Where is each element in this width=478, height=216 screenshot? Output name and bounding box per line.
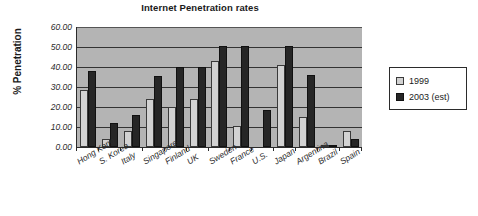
bar-group: [318, 27, 340, 147]
bar-group: [165, 27, 187, 147]
chart-title: Internet Penetration rates: [0, 2, 400, 13]
x-axis-category-labels: Hong KongS. KoreaItalySingaporeFinlandUK…: [0, 152, 478, 216]
x-axis-tick-mark: [295, 147, 296, 151]
x-axis-tick-mark: [273, 147, 274, 151]
bar: [190, 99, 198, 147]
bar: [219, 46, 227, 147]
x-axis-tick-mark: [142, 147, 143, 151]
y-axis-tick-label: 60.00: [26, 22, 72, 32]
y-axis-tick-label: 40.00: [26, 62, 72, 72]
bar: [146, 99, 154, 147]
bar: [80, 90, 88, 147]
bar-group: [340, 27, 362, 147]
internet-penetration-bar-chart: Internet Penetration rates % Penetration…: [0, 0, 478, 216]
bar: [198, 67, 206, 147]
bar-group: [77, 27, 99, 147]
bar: [263, 110, 271, 147]
plot-area: [76, 27, 362, 148]
legend-swatch-icon-2003: [396, 93, 404, 101]
bar-group: [252, 27, 274, 147]
bar: [154, 76, 162, 147]
bar: [299, 117, 307, 147]
bar-group: [209, 27, 231, 147]
bar-group: [187, 27, 209, 147]
y-axis-tick-labels: 0.0010.0020.0030.0040.0050.0060.00: [24, 27, 72, 147]
bar: [88, 71, 96, 147]
bar-group: [230, 27, 252, 147]
x-axis-tick-mark: [208, 147, 209, 151]
bar-group: [274, 27, 296, 147]
x-axis-tick-mark: [76, 147, 77, 151]
legend-entry-2003: 2003 (est): [396, 92, 461, 102]
bar: [285, 46, 293, 147]
legend-label-2003: 2003 (est): [409, 92, 450, 102]
x-axis-tick-mark: [361, 147, 362, 151]
bar: [343, 131, 351, 147]
bar-group: [121, 27, 143, 147]
bar: [307, 75, 315, 147]
legend-entry-1999: 1999: [396, 76, 461, 86]
chart-legend: 1999 2003 (est): [389, 67, 467, 110]
legend-swatch-icon-1999: [396, 77, 404, 85]
bars-layer: [77, 27, 362, 147]
y-axis-tick-label: 30.00: [26, 82, 72, 92]
bar: [211, 61, 219, 147]
bar: [277, 65, 285, 147]
bar-group: [99, 27, 121, 147]
y-axis-tick-label: 10.00: [26, 122, 72, 132]
x-axis-tick-mark: [339, 147, 340, 151]
bar-group: [296, 27, 318, 147]
bar: [132, 115, 140, 147]
bar: [176, 67, 184, 147]
y-axis-tick-label: 20.00: [26, 102, 72, 112]
y-axis-tick-label: 0.00: [26, 142, 72, 152]
y-axis-title: % Penetration: [12, 17, 23, 107]
bar-group: [143, 27, 165, 147]
y-axis-tick-label: 50.00: [26, 42, 72, 52]
legend-label-1999: 1999: [409, 76, 429, 86]
bar: [241, 46, 249, 147]
